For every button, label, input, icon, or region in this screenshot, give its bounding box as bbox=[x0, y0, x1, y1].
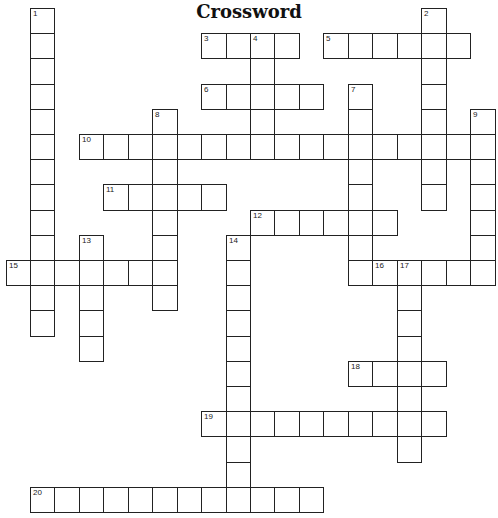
crossword-cell[interactable] bbox=[348, 159, 373, 185]
crossword-cell-7[interactable]: 7 bbox=[348, 84, 373, 110]
crossword-cell[interactable] bbox=[299, 210, 324, 236]
crossword-cell[interactable] bbox=[30, 159, 55, 185]
crossword-cell[interactable] bbox=[226, 285, 251, 311]
crossword-cell[interactable] bbox=[250, 487, 275, 513]
crossword-cell[interactable] bbox=[226, 134, 251, 160]
crossword-cell[interactable] bbox=[128, 260, 153, 286]
crossword-cell[interactable] bbox=[299, 134, 324, 160]
crossword-cell[interactable] bbox=[397, 336, 422, 362]
crossword-cell[interactable] bbox=[226, 386, 251, 412]
crossword-cell[interactable] bbox=[54, 487, 80, 513]
crossword-cell[interactable] bbox=[397, 436, 422, 463]
crossword-cell[interactable] bbox=[152, 159, 178, 185]
crossword-cell[interactable] bbox=[103, 134, 129, 160]
crossword-cell[interactable] bbox=[348, 134, 373, 160]
crossword-cell[interactable] bbox=[250, 411, 275, 437]
crossword-cell[interactable] bbox=[397, 33, 422, 59]
crossword-cell-15[interactable]: 15 bbox=[6, 260, 31, 286]
crossword-cell[interactable] bbox=[152, 235, 178, 261]
crossword-cell[interactable] bbox=[421, 58, 447, 85]
crossword-cell[interactable] bbox=[250, 58, 275, 85]
crossword-cell[interactable] bbox=[274, 33, 300, 59]
crossword-cell[interactable] bbox=[226, 336, 251, 362]
crossword-cell[interactable] bbox=[226, 361, 251, 387]
crossword-cell-19[interactable]: 19 bbox=[201, 411, 227, 437]
crossword-cell[interactable] bbox=[372, 33, 398, 59]
crossword-cell[interactable] bbox=[470, 159, 496, 185]
crossword-cell[interactable] bbox=[470, 260, 496, 286]
crossword-cell[interactable] bbox=[226, 436, 251, 463]
crossword-cell[interactable] bbox=[30, 33, 55, 59]
crossword-cell-4[interactable]: 4 bbox=[250, 33, 275, 59]
crossword-cell-9[interactable]: 9 bbox=[470, 109, 496, 135]
crossword-cell[interactable] bbox=[323, 134, 349, 160]
crossword-cell[interactable] bbox=[397, 134, 422, 160]
crossword-cell[interactable] bbox=[30, 210, 55, 236]
crossword-cell-5[interactable]: 5 bbox=[323, 33, 349, 59]
crossword-cell[interactable] bbox=[348, 411, 373, 437]
crossword-cell[interactable] bbox=[30, 235, 55, 261]
crossword-cell[interactable] bbox=[397, 310, 422, 337]
crossword-cell[interactable] bbox=[299, 411, 324, 437]
crossword-cell[interactable] bbox=[152, 285, 178, 311]
crossword-cell[interactable] bbox=[226, 260, 251, 286]
crossword-cell[interactable] bbox=[152, 184, 178, 211]
crossword-cell[interactable] bbox=[421, 134, 447, 160]
crossword-cell[interactable] bbox=[348, 33, 373, 59]
crossword-cell[interactable] bbox=[250, 84, 275, 110]
crossword-cell[interactable] bbox=[30, 285, 55, 311]
crossword-cell[interactable] bbox=[274, 487, 300, 513]
crossword-cell[interactable] bbox=[274, 411, 300, 437]
crossword-cell-11[interactable]: 11 bbox=[103, 184, 129, 211]
crossword-cell[interactable] bbox=[201, 134, 227, 160]
crossword-cell[interactable] bbox=[103, 487, 129, 513]
crossword-cell-20[interactable]: 20 bbox=[30, 487, 55, 513]
crossword-cell[interactable] bbox=[446, 134, 471, 160]
crossword-cell[interactable] bbox=[470, 235, 496, 261]
crossword-cell[interactable] bbox=[177, 134, 202, 160]
crossword-cell[interactable] bbox=[372, 210, 398, 236]
crossword-cell[interactable] bbox=[30, 109, 55, 135]
crossword-cell[interactable] bbox=[299, 487, 324, 513]
crossword-cell[interactable] bbox=[397, 411, 422, 437]
crossword-cell-8[interactable]: 8 bbox=[152, 109, 178, 135]
crossword-cell-6[interactable]: 6 bbox=[201, 84, 227, 110]
crossword-cell[interactable] bbox=[421, 361, 447, 387]
crossword-cell[interactable] bbox=[226, 84, 251, 110]
crossword-cell[interactable] bbox=[226, 411, 251, 437]
crossword-cell[interactable] bbox=[421, 260, 447, 286]
crossword-cell[interactable] bbox=[372, 134, 398, 160]
crossword-cell[interactable] bbox=[446, 260, 471, 286]
crossword-cell[interactable] bbox=[79, 336, 104, 362]
crossword-cell[interactable] bbox=[421, 109, 447, 135]
crossword-cell-14[interactable]: 14 bbox=[226, 235, 251, 261]
crossword-cell-13[interactable]: 13 bbox=[79, 235, 104, 261]
crossword-cell[interactable] bbox=[421, 33, 447, 59]
crossword-cell[interactable] bbox=[397, 361, 422, 387]
crossword-cell[interactable] bbox=[372, 411, 398, 437]
crossword-cell[interactable] bbox=[274, 134, 300, 160]
crossword-cell[interactable] bbox=[128, 184, 153, 211]
crossword-cell[interactable] bbox=[397, 386, 422, 412]
crossword-cell[interactable] bbox=[226, 487, 251, 513]
crossword-cell[interactable] bbox=[226, 310, 251, 337]
crossword-cell[interactable] bbox=[152, 210, 178, 236]
crossword-cell[interactable] bbox=[30, 184, 55, 211]
crossword-cell[interactable] bbox=[421, 159, 447, 185]
crossword-cell[interactable] bbox=[30, 260, 55, 286]
crossword-cell[interactable] bbox=[201, 487, 227, 513]
crossword-cell[interactable] bbox=[79, 310, 104, 337]
crossword-cell[interactable] bbox=[446, 33, 471, 59]
crossword-cell[interactable] bbox=[30, 58, 55, 85]
crossword-cell[interactable] bbox=[103, 260, 129, 286]
crossword-cell[interactable] bbox=[372, 361, 398, 387]
crossword-cell-3[interactable]: 3 bbox=[201, 33, 227, 59]
crossword-cell[interactable] bbox=[128, 487, 153, 513]
crossword-cell[interactable] bbox=[152, 487, 178, 513]
crossword-cell[interactable] bbox=[201, 184, 227, 211]
crossword-cell[interactable] bbox=[397, 285, 422, 311]
crossword-cell[interactable] bbox=[152, 260, 178, 286]
crossword-cell-17[interactable]: 17 bbox=[397, 260, 422, 286]
crossword-cell[interactable] bbox=[348, 109, 373, 135]
crossword-cell[interactable] bbox=[250, 134, 275, 160]
